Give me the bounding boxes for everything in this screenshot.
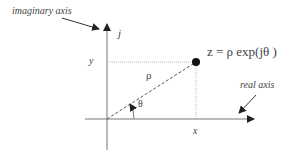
rho-label: ρ xyxy=(146,70,152,81)
real-axis-label: real axis xyxy=(240,80,274,90)
theta-label: θ xyxy=(138,99,143,109)
y-label: y xyxy=(89,56,93,66)
equation-label: z = ρ exp(jθ ) xyxy=(207,45,277,58)
imaginary-axis-label: imaginary axis xyxy=(12,6,72,16)
theta-arc xyxy=(130,104,134,119)
x-label: x xyxy=(193,126,197,136)
real-axis-callout-arrow xyxy=(239,95,256,113)
imaginary-axis-callout-arrow xyxy=(62,18,99,29)
point-z xyxy=(192,58,200,66)
j-label: j xyxy=(118,28,121,39)
